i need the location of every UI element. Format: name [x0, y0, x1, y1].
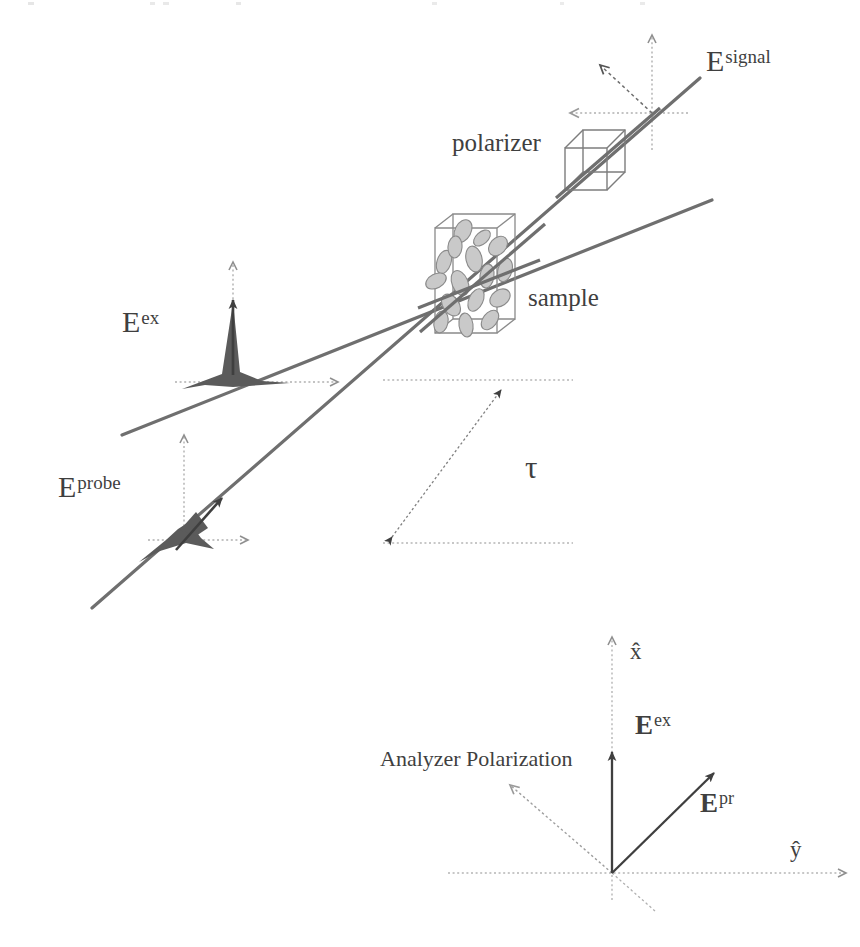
- figure-root: Esignal polarizer sample Eex Eprobe τ x̂…: [0, 0, 860, 947]
- e-pr-vector: [612, 773, 714, 873]
- ex-pulse-axes: [175, 262, 338, 382]
- e-ex-vector-label: Eex: [635, 712, 670, 739]
- sample-label: sample: [528, 285, 599, 310]
- analyzer-polarization-line: [510, 785, 655, 911]
- analyzer-polarization-label: Analyzer Polarization: [380, 748, 572, 770]
- polarizer-label: polarizer: [452, 130, 541, 155]
- e-probe-label: Eprobe: [58, 472, 120, 502]
- scan-artifacts: [28, 2, 645, 5]
- e-pr-vector-label: Epr: [700, 790, 733, 817]
- y-hat-label: ŷ: [790, 838, 802, 861]
- e-ex-label: Eex: [122, 307, 158, 337]
- tau-label: τ: [525, 452, 537, 483]
- excitation-beam: [122, 200, 712, 435]
- tau-delay-marker: [383, 380, 573, 543]
- x-hat-label: x̂: [630, 640, 642, 663]
- beam-overlay-polarizer: [556, 108, 660, 198]
- e-signal-label: Esignal: [706, 46, 770, 76]
